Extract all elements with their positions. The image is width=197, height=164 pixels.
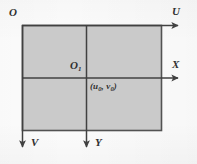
v-axis-label: V (31, 137, 38, 148)
v0-subscript: 0 (110, 85, 113, 92)
u-axis-label: U (172, 6, 180, 17)
origin-O-label: O (9, 7, 17, 18)
x-axis-label: X (172, 59, 179, 70)
origin-O1-subscript: 1 (78, 65, 82, 73)
u0-subscript: 0 (98, 85, 101, 92)
y-axis-label: Y (95, 137, 102, 148)
coordinate-systems-figure: O U X O1 (u0, v0) V Y (0, 0, 197, 164)
origin-O1-letter: O (70, 59, 78, 71)
paren-close: ) (114, 81, 117, 91)
origin-O1-label: O1 (70, 60, 81, 71)
principal-point-label: (u0, v0) (90, 82, 117, 91)
